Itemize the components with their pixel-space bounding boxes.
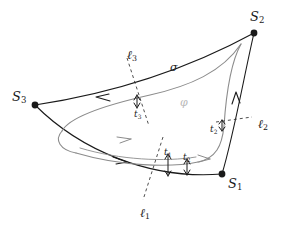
transversal-label-l2: ℓ2 — [258, 118, 268, 132]
inner-curve-right-turn — [198, 44, 241, 162]
boundary-curve-s1-s2 — [222, 33, 254, 174]
vertex-label-s3-base: S — [12, 89, 21, 104]
arrowhead-top-left — [96, 94, 110, 101]
transversal-line-l1 — [143, 137, 163, 200]
curve-label-phi: φ — [180, 97, 188, 108]
vertex-dot-s3 — [32, 102, 39, 109]
vertex-label-s1-sub: 1 — [237, 182, 242, 192]
vertex-label-s3-sub: 3 — [21, 95, 26, 105]
inner-curve-left-turn — [58, 131, 76, 153]
gap-label-t2-inner: t2 — [183, 153, 190, 163]
vertex-label-s2-base: S — [250, 9, 259, 24]
transversal-label-l2-sub: 2 — [263, 123, 268, 132]
gap-label-t2-sub: 2 — [214, 128, 218, 135]
vertex-label-s2-sub: 2 — [259, 15, 264, 25]
inner-curve-top-strand — [62, 44, 241, 131]
vertex-label-s3: S3 — [12, 90, 26, 105]
inner-arrowhead-left — [117, 137, 131, 143]
gap-label-t1-sub: 1 — [168, 151, 172, 158]
gap-label-t2: t2 — [210, 125, 217, 135]
gap-label-t2-inner-sub: 2 — [187, 156, 191, 163]
boundary-curve-s3-s2 — [35, 33, 254, 105]
curve-label-sigma: σ — [170, 62, 178, 73]
vertex-label-s1-base: S — [228, 176, 237, 191]
transversal-label-l1-sub: 1 — [145, 212, 150, 221]
transversal-label-l1: ℓ1 — [140, 207, 150, 221]
gap-label-t3-sub: 3 — [138, 113, 142, 120]
transversal-label-l3: ℓ3 — [127, 49, 137, 63]
gap-label-t1: t1 — [164, 148, 171, 158]
figure-canvas: S1 S2 S3 ℓ1 ℓ2 ℓ3 t1 t2 t2 t3 σ φ — [0, 0, 282, 235]
vertex-dot-s1 — [219, 171, 226, 178]
gap-arrow-t3 — [134, 95, 140, 108]
vertex-dot-s2 — [251, 30, 258, 37]
vertex-label-s2: S2 — [250, 10, 264, 25]
gap-label-t3: t3 — [134, 110, 141, 120]
inner-arrowhead-bottom-right — [198, 155, 210, 162]
vertex-label-s1: S1 — [228, 177, 242, 192]
transversal-label-l3-sub: 3 — [132, 54, 137, 63]
